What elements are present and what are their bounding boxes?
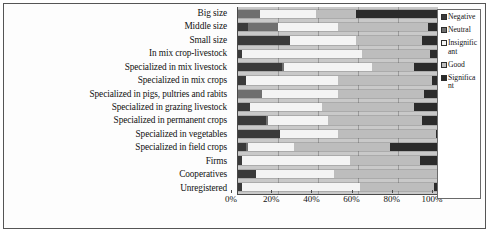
bar-segment-good — [338, 130, 436, 138]
x-tick-label: 40% — [303, 194, 320, 204]
bar-segment-negative — [238, 23, 248, 31]
bar-row — [238, 141, 438, 154]
category-label: Specialized in pigs, pultries and rabits — [6, 88, 231, 101]
stacked-bar — [238, 90, 438, 98]
bar-segment-good — [350, 156, 420, 164]
bar-segment-insignificant — [284, 63, 372, 71]
bar-segment-negative — [238, 130, 280, 138]
bar-segment-neutral — [238, 10, 260, 18]
chart-figure: Big sizeMiddle sizeSmall sizeIn mix crop… — [0, 0, 489, 232]
legend-label: Significant — [448, 74, 478, 90]
category-axis-labels: Big sizeMiddle sizeSmall sizeIn mix crop… — [6, 7, 231, 195]
legend-item-significant: Significant — [441, 74, 478, 90]
x-tick-mark — [392, 190, 393, 193]
chart-legend: NegativeNeutralInsignificantGoodSignific… — [437, 9, 481, 199]
x-tick-mark — [432, 190, 433, 193]
bar-segment-significant — [414, 103, 438, 111]
bar-row — [238, 20, 438, 33]
legend-label: Neutral — [448, 26, 471, 34]
bar-row — [238, 114, 438, 127]
stacked-bar — [238, 103, 438, 111]
category-label: Specialized in permanent crops — [6, 114, 231, 127]
bar-segment-good — [372, 63, 414, 71]
stacked-bar — [238, 50, 438, 58]
bar-segment-insignificant — [246, 76, 338, 84]
bar-segment-negative — [238, 103, 250, 111]
x-tick-mark — [352, 190, 353, 193]
category-label: Unregistered — [6, 181, 231, 194]
legend-swatch-neutral-icon — [441, 27, 447, 33]
legend-swatch-insignificant-icon — [441, 40, 447, 46]
bar-segment-good — [328, 116, 422, 124]
x-tick-label: 0% — [225, 194, 237, 204]
bar-row — [238, 101, 438, 114]
bar-segment-good — [338, 90, 424, 98]
stacked-bar — [238, 36, 438, 44]
bar-segment-negative — [238, 116, 266, 124]
legend-swatch-significant-icon — [441, 75, 447, 81]
bar-segment-good — [334, 170, 438, 178]
bar-row — [238, 87, 438, 100]
bar-segment-insignificant — [262, 90, 338, 98]
bar-segment-negative — [238, 63, 282, 71]
x-tick-label: 80% — [384, 194, 401, 204]
bar-segment-insignificant — [268, 116, 328, 124]
plot-area — [237, 7, 438, 195]
category-label: Specialized in mix livestock — [6, 61, 231, 74]
stacked-bar — [238, 10, 438, 18]
bar-segment-insignificant — [280, 130, 338, 138]
bar-segment-insignificant — [290, 36, 356, 44]
bar-segment-good — [338, 23, 428, 31]
x-tick-label: 60% — [343, 194, 360, 204]
legend-swatch-good-icon — [441, 62, 447, 68]
category-label: Big size — [6, 7, 231, 20]
bar-segment-insignificant — [248, 143, 294, 151]
bar-segment-insignificant — [260, 10, 316, 18]
bar-segment-negative — [238, 76, 246, 84]
bar-segment-insignificant — [278, 23, 338, 31]
bar-row — [238, 154, 438, 167]
legend-item-good: Good — [441, 61, 478, 69]
category-label: Specialized in mix crops — [6, 74, 231, 87]
x-tick-mark — [271, 190, 272, 193]
category-label: Specialized in vegetables — [6, 128, 231, 141]
bar-row — [238, 167, 438, 180]
stacked-bar — [238, 130, 438, 138]
stacked-bar — [238, 63, 438, 71]
bar-segment-insignificant — [242, 156, 350, 164]
bar-segment-significant — [424, 90, 438, 98]
x-axis: 0%20%40%60%80%100% — [231, 190, 432, 212]
category-label: Middle size — [6, 20, 231, 33]
stacked-bar — [238, 170, 438, 178]
bar-segment-significant — [390, 143, 438, 151]
bar-segment-significant — [356, 10, 438, 18]
category-label: Specialized in field crops — [6, 141, 231, 154]
legend-label: Negative — [448, 13, 475, 21]
category-label: In mix crop-livestock — [6, 47, 231, 60]
legend-item-insignificant: Insignificant — [441, 39, 478, 55]
x-tick-mark — [311, 190, 312, 193]
legend-item-negative: Negative — [441, 13, 478, 21]
bar-segment-insignificant — [250, 103, 322, 111]
bar-row — [238, 60, 438, 73]
stacked-bar — [238, 143, 438, 151]
bar-segment-significant — [422, 36, 438, 44]
bar-segment-significant — [422, 116, 438, 124]
bar-row — [238, 127, 438, 140]
stacked-bar — [238, 76, 438, 84]
bar-segment-good — [294, 143, 390, 151]
bar-segment-negative — [238, 143, 246, 151]
bar-segment-good — [338, 76, 432, 84]
category-label: Specialized in grazing livestock — [6, 101, 231, 114]
bar-segment-negative — [238, 170, 256, 178]
category-label: Cooperatives — [6, 168, 231, 181]
x-tick-label: 20% — [263, 194, 280, 204]
bar-segment-insignificant — [242, 50, 362, 58]
chart-area: Big sizeMiddle sizeSmall sizeIn mix crop… — [6, 6, 432, 221]
stacked-bar — [238, 156, 438, 164]
bar-row — [238, 47, 438, 60]
bar-segment-neutral — [238, 90, 262, 98]
bar-segment-good — [322, 103, 414, 111]
stacked-bar — [238, 116, 438, 124]
bar-row — [238, 34, 438, 47]
